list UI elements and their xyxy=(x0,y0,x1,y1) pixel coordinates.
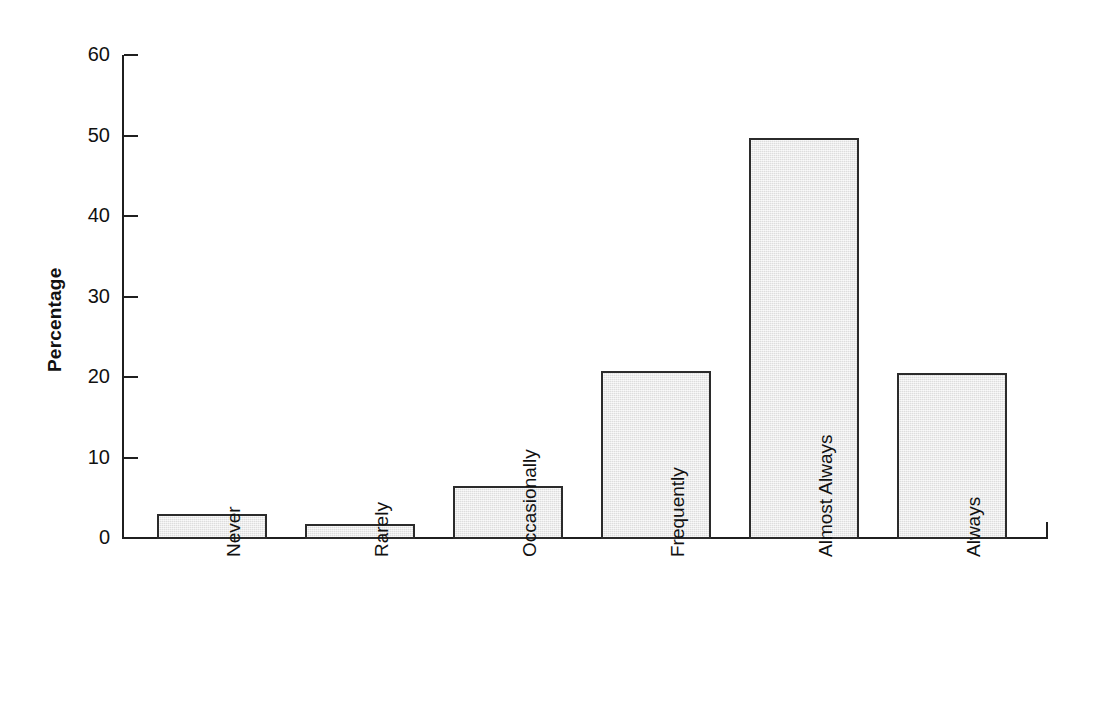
x-axis-category-label: Never xyxy=(222,506,246,557)
y-axis-tick-label: 60 xyxy=(64,44,110,64)
bar-chart: Percentage 0102030405060 NeverRarelyOcca… xyxy=(0,0,1098,724)
bar xyxy=(305,524,415,539)
bar xyxy=(601,371,711,539)
y-axis-tick xyxy=(124,296,138,298)
y-axis-tick xyxy=(124,376,138,378)
y-axis-tick-label: 0 xyxy=(64,527,110,547)
y-axis-tick xyxy=(124,457,138,459)
bar xyxy=(897,373,1007,539)
x-axis-category-label: Occasionally xyxy=(518,449,542,557)
plot-area: 0102030405060 xyxy=(122,50,1050,542)
x-axis-category-label: Frequently xyxy=(666,467,690,557)
y-axis-tick-label: 50 xyxy=(64,125,110,145)
y-axis-tick xyxy=(124,215,138,217)
x-axis-category-label: Almost Always xyxy=(814,435,838,557)
x-axis-category-label: Always xyxy=(962,497,986,557)
y-axis-tick-label: 40 xyxy=(64,205,110,225)
y-axis-tick xyxy=(124,54,138,56)
bar xyxy=(157,514,267,539)
bar xyxy=(749,138,859,539)
x-axis-end-tick xyxy=(1046,522,1048,539)
y-axis-tick-label: 10 xyxy=(64,447,110,467)
y-axis-tick-label: 20 xyxy=(64,366,110,386)
y-axis-tick xyxy=(124,135,138,137)
x-axis-category-label: Rarely xyxy=(370,502,394,557)
y-axis-tick-label: 30 xyxy=(64,286,110,306)
bar xyxy=(453,486,563,539)
y-axis-tick xyxy=(124,537,138,539)
